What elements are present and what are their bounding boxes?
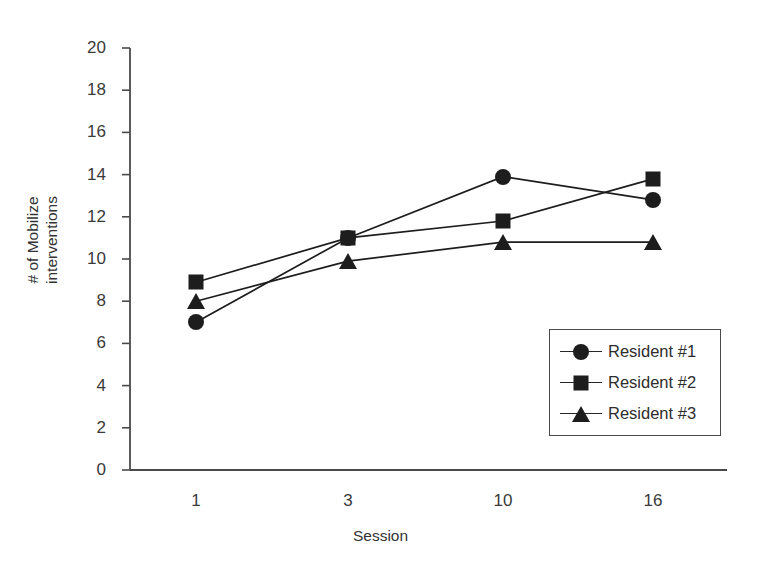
legend-item-label: Resident #2	[604, 373, 696, 392]
square-marker-icon	[574, 375, 589, 390]
triangle-marker-icon	[339, 253, 357, 269]
triangle-marker-icon	[494, 234, 512, 250]
legend-marker-key	[558, 342, 604, 362]
circle-marker-icon	[188, 314, 204, 330]
legend-item[interactable]: Resident #3	[558, 398, 712, 429]
legend-item-label: Resident #3	[604, 404, 696, 423]
triangle-marker-icon	[572, 406, 590, 422]
legend-item[interactable]: Resident #2	[558, 367, 712, 398]
legend-item[interactable]: Resident #1	[558, 336, 712, 367]
circle-marker-icon	[645, 192, 661, 208]
chart-figure: # of Mobilize interventions 024681012141…	[0, 0, 761, 574]
square-marker-icon	[341, 230, 356, 245]
circle-marker-icon	[573, 344, 589, 360]
y-axis-ticks	[122, 48, 130, 470]
legend-marker-key	[558, 373, 604, 393]
x-axis-tick-label: 3	[318, 492, 378, 509]
x-axis-title: Session	[0, 527, 761, 545]
square-marker-icon	[646, 171, 661, 186]
x-axis-tick-label: 10	[473, 492, 533, 509]
x-axis-tick-label: 1	[166, 492, 226, 509]
triangle-marker-icon	[187, 293, 205, 309]
series-lines	[196, 177, 653, 323]
square-marker-icon	[496, 214, 511, 229]
square-marker-icon	[189, 275, 204, 290]
triangle-marker-icon	[644, 234, 662, 250]
x-axis-tick-label: 16	[623, 492, 683, 509]
plot-area	[0, 0, 761, 574]
legend-item-label: Resident #1	[604, 342, 696, 361]
legend-marker-key	[558, 404, 604, 424]
series-line	[196, 242, 653, 301]
series-line	[196, 179, 653, 282]
circle-marker-icon	[495, 169, 511, 185]
chart-legend: Resident #1Resident #2Resident #3	[549, 329, 721, 436]
